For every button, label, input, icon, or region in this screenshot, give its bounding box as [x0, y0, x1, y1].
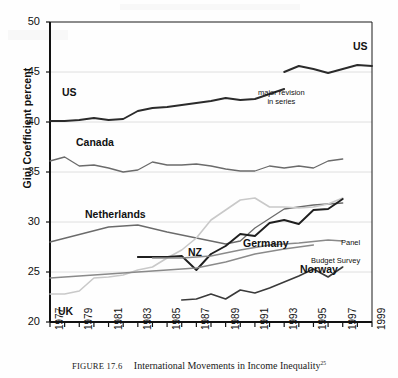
- x-tick-label-1983: 1983: [142, 308, 153, 330]
- y-tick-label-30: 30: [14, 215, 40, 227]
- figure-caption: FIGURE 17.6 International Movements in I…: [0, 360, 398, 371]
- annotation-line-2: in series: [258, 98, 305, 107]
- figure-number: FIGURE 17.6: [72, 361, 122, 371]
- y-tick-label-35: 35: [14, 165, 40, 177]
- figure-footnote-marker: 25: [320, 360, 326, 366]
- y-tick-label-20: 20: [14, 315, 40, 327]
- y-tick-label-50: 50: [14, 15, 40, 27]
- series-label-canada: Canada: [76, 136, 114, 148]
- sub-label-budget-survey: Budget Survey: [311, 256, 360, 265]
- y-tick-label-25: 25: [14, 265, 40, 277]
- series-label-nz: NZ: [188, 246, 202, 258]
- x-tick-label-1993: 1993: [288, 308, 299, 330]
- x-tick-label-1987: 1987: [200, 308, 211, 330]
- series-label-us-upper: US: [353, 40, 368, 52]
- x-tick-label-1979: 1979: [83, 308, 94, 330]
- x-tick-label-1981: 1981: [113, 308, 124, 330]
- series-line-us: [50, 89, 284, 121]
- annotation-major-revision: major revisionin series: [258, 89, 305, 106]
- figure-caption-text: International Movements in Income Inequa…: [134, 360, 321, 371]
- y-tick-label-40: 40: [14, 115, 40, 127]
- series-line-canada: [50, 157, 343, 172]
- y-tick-label-45: 45: [14, 65, 40, 77]
- x-tick-label-1999: 1999: [376, 308, 387, 330]
- series-label-uk: UK: [58, 305, 73, 317]
- series-label-us-lower: US: [62, 86, 77, 98]
- figure-root: Gini Coefficient percent 20253035404550 …: [0, 0, 398, 378]
- series-label-netherlands: Netherlands: [85, 208, 146, 220]
- x-tick-label-1985: 1985: [171, 308, 182, 330]
- x-tick-label-1995: 1995: [317, 308, 328, 330]
- x-tick-label-1989: 1989: [230, 308, 241, 330]
- x-tick-label-1991: 1991: [259, 308, 270, 330]
- sub-label-panel: Panel: [341, 238, 360, 247]
- x-tick-label-1997: 1997: [347, 308, 358, 330]
- series-label-germany: Germany: [243, 237, 289, 249]
